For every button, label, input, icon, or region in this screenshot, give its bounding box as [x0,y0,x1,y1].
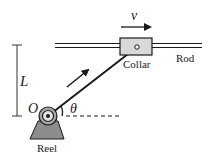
angle-label: θ [70,101,77,116]
origin-label: O [28,101,38,116]
collar-label: Collar [123,58,151,70]
reel [39,107,57,125]
length-label: L [19,73,28,89]
angle-arc [61,106,62,116]
cable-direction-arrow [67,70,88,87]
reel-label: Reel [37,142,57,154]
reel-collar-diagram: L Rod v Collar θ O Reel [0,0,216,156]
rod-label: Rod [176,52,195,64]
velocity-label: v [131,8,138,23]
collar-pin [135,45,139,49]
